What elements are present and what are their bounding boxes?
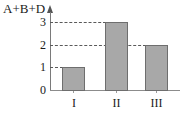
- y-tick-1: 1: [30, 61, 46, 73]
- y-axis-line: [50, 12, 51, 91]
- x-tickmark-I: [73, 91, 74, 93]
- x-tick-label-II: II: [105, 97, 128, 110]
- gridline-3: [50, 22, 106, 23]
- bar-II: [105, 22, 128, 91]
- bar-III: [145, 45, 168, 91]
- y-tick-0: 0: [30, 84, 46, 96]
- bar-chart: A+B+D 3 2 1 0 I II III: [0, 0, 182, 117]
- y-tick-2: 2: [30, 39, 46, 51]
- bar-I: [62, 67, 85, 91]
- x-tick-label-I: I: [63, 97, 85, 110]
- y-tick-3: 3: [30, 16, 46, 28]
- gridline-2: [50, 45, 146, 46]
- y-tick-label: 1: [30, 61, 46, 73]
- y-tick-label: 0: [30, 84, 46, 96]
- y-axis-label: A+B+D: [3, 2, 45, 16]
- x-tick-label-III: III: [145, 97, 168, 110]
- x-tickmark-II: [116, 91, 117, 93]
- y-tick-label: 3: [30, 16, 46, 28]
- y-tick-label: 2: [30, 39, 46, 51]
- x-tickmark-III: [156, 91, 157, 93]
